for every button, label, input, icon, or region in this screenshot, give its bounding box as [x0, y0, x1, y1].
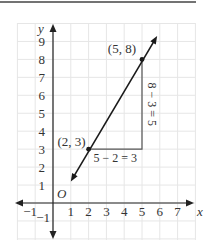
- point-marker: [86, 147, 91, 152]
- origin-label: O: [57, 186, 67, 201]
- x-tick-label: 7: [174, 204, 181, 219]
- y-tick-label: −1: [36, 210, 50, 225]
- line-arrow-start-icon: [71, 173, 78, 182]
- y-axis-label: y: [36, 21, 44, 36]
- x-tick-label: 1: [68, 204, 75, 219]
- run-label: 5 − 2 = 3: [94, 151, 138, 165]
- y-tick-label: 7: [39, 70, 46, 85]
- x-tick-label: 4: [121, 204, 128, 219]
- y-tick-label: 8: [39, 52, 46, 67]
- rise-run-lines: [89, 59, 142, 149]
- labels: −11234567−1123456789yxO(2, 3)(5, 8)5 − 2…: [23, 21, 203, 225]
- y-tick-label: 4: [39, 124, 46, 139]
- slope-triangle: [89, 59, 142, 149]
- x-tick-label: 6: [157, 204, 164, 219]
- x-tick-label: −1: [23, 204, 37, 219]
- y-axis-arrow-up-icon: [50, 24, 57, 32]
- point-marker: [140, 57, 145, 62]
- x-axis-label: x: [196, 204, 203, 219]
- slope-diagram: −11234567−1123456789yxO(2, 3)(5, 8)5 − 2…: [0, 0, 206, 252]
- y-tick-label: 1: [39, 178, 46, 193]
- x-axis-arrow-right-icon: [186, 200, 194, 207]
- y-tick-label: 9: [39, 34, 46, 49]
- x-tick-label: 5: [139, 204, 146, 219]
- rise-label: 8 − 3 = 5: [145, 83, 159, 127]
- y-tick-label: 6: [39, 88, 46, 103]
- line-arrow-end-icon: [150, 36, 157, 45]
- point-label: (2, 3): [57, 134, 85, 149]
- y-axis-arrow-down-icon: [50, 231, 57, 239]
- x-tick-label: 2: [85, 204, 92, 219]
- y-tick-label: 5: [39, 106, 46, 121]
- y-tick-label: 2: [39, 160, 46, 175]
- coordinate-plane: −11234567−1123456789yxO(2, 3)(5, 8)5 − 2…: [0, 0, 206, 252]
- point-label: (5, 8): [108, 41, 136, 56]
- x-axis-arrow-left-icon: [15, 200, 23, 207]
- x-tick-label: 3: [103, 204, 110, 219]
- y-tick-label: 3: [39, 142, 46, 157]
